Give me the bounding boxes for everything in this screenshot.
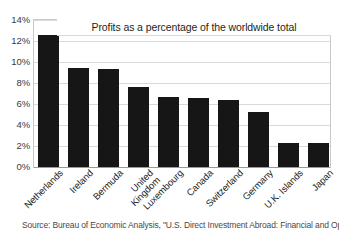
y-axis-tick-label: 12% [0,36,30,46]
y-axis-tick-label: 6% [0,99,30,109]
y-axis-tick-label: 10% [0,57,30,67]
chart-title: Profits as a percentage of the worldwide… [57,19,331,36]
x-axis-tick-labels: Netherlands Ireland Bermuda United Kingd… [0,168,339,220]
bar-uk-islands [278,143,299,167]
bar-united-kingdom [128,87,149,167]
source-note: Source: Bureau of Economic Analysis, "U.… [22,220,339,231]
bar-series [34,20,330,167]
bar-ireland [68,68,89,167]
y-axis-tick-label: 4% [0,120,30,130]
y-axis-tick-label: 8% [0,78,30,88]
bar-germany [248,112,269,167]
bar-canada [188,98,209,167]
y-axis-tick-label: 14% [0,15,30,25]
bar-bermuda [98,69,119,167]
bar-switzerland [218,100,239,167]
y-axis-tick-label: 2% [0,141,30,151]
chart-figure: 14% 12% 10% 8% 6% 4% 2% 0% Profits as a … [0,0,339,235]
bar-japan [308,143,329,167]
bar-luxembourg [158,97,179,167]
bar-netherlands [38,35,59,167]
